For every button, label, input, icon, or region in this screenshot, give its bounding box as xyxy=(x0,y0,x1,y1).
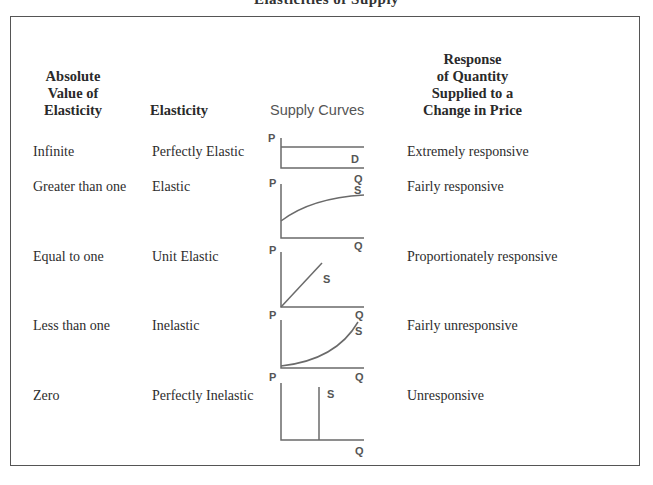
row-less-elasticity: Inelastic xyxy=(152,318,199,334)
row-greater-abs: Greater than one xyxy=(33,179,126,195)
axis-label-q: Q xyxy=(354,240,363,252)
row-infinite-response: Extremely responsive xyxy=(407,144,529,160)
row-equal-abs: Equal to one xyxy=(33,249,104,265)
row-less-abs: Less than one xyxy=(33,318,110,334)
row-infinite-elasticity: Perfectly Elastic xyxy=(152,144,244,160)
linear-curve xyxy=(281,263,322,307)
header-line: of Quantity xyxy=(400,68,545,85)
header-line: Value of xyxy=(28,85,118,102)
curve-label: S xyxy=(323,273,330,285)
convex-curve xyxy=(281,322,358,366)
graph-axes xyxy=(281,383,364,440)
curve-label: S xyxy=(327,388,334,400)
curve-label: S xyxy=(354,184,361,196)
axis-label-p: P xyxy=(268,132,275,144)
supply-curves-graphs: P D P Q S P Q S P Q S P Q S Q xyxy=(266,130,376,460)
axis-label-p: P xyxy=(269,177,276,189)
header-supply-curves: Supply Curves xyxy=(270,102,364,119)
axis-label-p: P xyxy=(269,371,276,383)
header-response: Response of Quantity Supplied to a Chang… xyxy=(400,51,545,119)
axis-label-p: P xyxy=(269,244,276,256)
row-greater-elasticity: Elastic xyxy=(152,179,190,195)
curve-label: S xyxy=(355,325,362,337)
axis-label-p: P xyxy=(269,309,276,321)
row-equal-response: Proportionately responsive xyxy=(407,249,557,265)
concave-curve xyxy=(281,195,364,221)
header-line: Absolute xyxy=(28,68,118,85)
axis-label-q: Q xyxy=(355,309,364,321)
header-line: Supplied to a xyxy=(400,85,545,102)
row-infinite-abs: Infinite xyxy=(33,144,74,160)
header-line: Elasticity xyxy=(28,102,118,119)
row-zero-response: Unresponsive xyxy=(407,388,484,404)
page-title: Elasticities of Supply xyxy=(0,0,653,8)
graph-axes xyxy=(281,320,364,368)
curve-label: D xyxy=(351,153,359,165)
row-zero-elasticity: Perfectly Inelastic xyxy=(152,388,253,404)
header-line: Response xyxy=(400,51,545,68)
header-absolute-value: Absolute Value of Elasticity xyxy=(28,68,118,119)
header-line: Change in Price xyxy=(400,102,545,119)
axis-label-q: Q xyxy=(355,445,364,457)
row-less-response: Fairly unresponsive xyxy=(407,318,518,334)
graph-axes xyxy=(281,184,364,238)
row-equal-elasticity: Unit Elastic xyxy=(152,249,219,265)
row-zero-abs: Zero xyxy=(33,388,59,404)
axis-label-q: Q xyxy=(355,371,364,383)
header-elasticity: Elasticity xyxy=(150,102,208,119)
row-greater-response: Fairly responsive xyxy=(407,179,504,195)
